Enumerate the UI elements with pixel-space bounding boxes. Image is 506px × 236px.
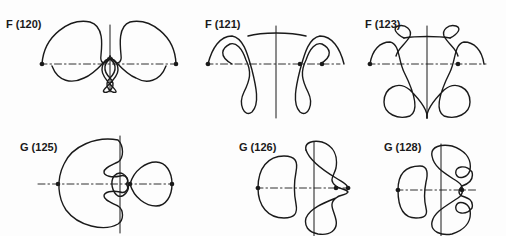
orbit-left-body — [59, 139, 128, 227]
orbit-right-lobe — [110, 21, 176, 64]
orbit-left-closed — [398, 166, 427, 218]
panel-f123 — [368, 26, 486, 118]
orbit-point — [346, 186, 349, 189]
panel-label-f123: F (123) — [365, 18, 400, 30]
panel-g126 — [256, 141, 352, 236]
panel-label-f120: F (120) — [6, 18, 41, 30]
panel-label-g128: G (128) — [384, 141, 421, 153]
panel-f120 — [40, 21, 180, 92]
orbit-point — [298, 62, 301, 65]
orbit-top-arc — [248, 33, 306, 36]
orbit-lower-right — [102, 58, 166, 92]
orbit-point — [334, 186, 337, 189]
orbit-left-lobe — [42, 21, 110, 64]
panel-g125 — [38, 136, 174, 233]
orbit-point — [206, 62, 209, 65]
panel-label-g126: G (126) — [239, 141, 276, 153]
orbit-point — [174, 62, 177, 65]
orbit-point — [460, 188, 463, 191]
orbit-right-outer — [295, 36, 344, 113]
orbit-left-closed — [258, 156, 297, 218]
panel-g128 — [396, 144, 476, 236]
orbit-point — [396, 188, 399, 191]
orbit-left-body — [370, 42, 427, 118]
orbit-figure-eight — [306, 141, 349, 234]
orbit-point — [368, 62, 371, 65]
orbit-left-outer — [208, 36, 257, 113]
panel-label-g125: G (125) — [20, 141, 57, 153]
orbit-point — [456, 62, 459, 65]
orbit-figure-eight-2 — [306, 150, 348, 188]
orbit-right-complex — [432, 145, 473, 234]
orbit-point — [56, 182, 59, 185]
figure: F (120) F (121) F (123) G (125) G (126) … — [0, 0, 506, 236]
orbit-point — [40, 62, 43, 65]
orbit-point — [320, 62, 323, 65]
orbit-point — [256, 186, 259, 189]
orbit-point — [170, 182, 173, 185]
orbit-right-body — [427, 42, 484, 118]
panel-f121 — [206, 26, 344, 118]
orbit-point — [128, 182, 131, 185]
panel-label-f121: F (121) — [205, 18, 240, 30]
